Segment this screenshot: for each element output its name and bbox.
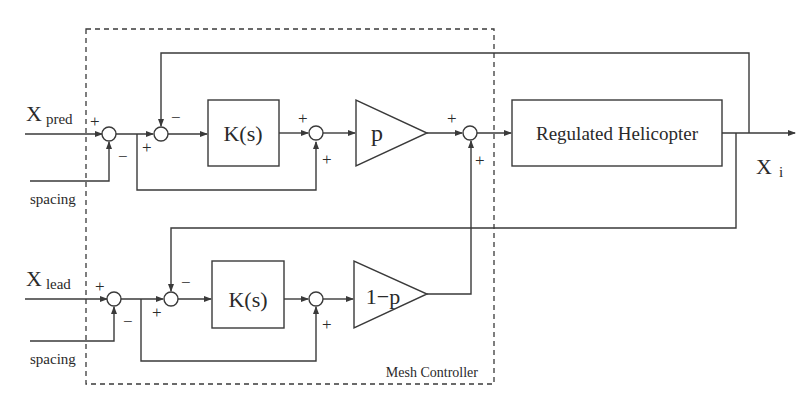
controller-bottom-label: K(s)	[228, 287, 267, 312]
spacing-top-label: spacing	[30, 191, 76, 207]
summing-junction-bottom-3	[309, 292, 323, 306]
sign-plus: +	[447, 109, 457, 128]
input-x-pred-label: Xpred	[26, 101, 73, 127]
gain-block-p	[356, 100, 427, 166]
summing-junction-mix	[463, 126, 477, 140]
wire-spacing-bottom	[30, 307, 114, 341]
controller-top-label: K(s)	[223, 121, 262, 146]
sign-plus: +	[152, 303, 162, 322]
sign-plus: +	[90, 112, 100, 131]
summing-junction-bottom-2	[164, 292, 178, 306]
sign-plus: +	[475, 151, 485, 170]
sign-plus: +	[298, 109, 308, 128]
gain-p-label: p	[371, 120, 383, 146]
sign-plus: +	[95, 277, 105, 296]
summing-junction-top-3	[309, 126, 323, 140]
sign-minus: −	[123, 312, 133, 331]
wire-gain-bottom-to-mix	[427, 141, 471, 294]
sign-plus: +	[322, 315, 332, 334]
sign-minus: −	[171, 108, 181, 127]
sign-minus: −	[181, 273, 191, 292]
sign-minus: −	[118, 147, 128, 166]
mesh-controller-diagram: Mesh Controller Xpred + spacing − + − K(…	[0, 0, 811, 408]
summing-junction-top-1	[102, 127, 116, 141]
mesh-controller-boundary	[86, 29, 494, 384]
output-x-i-label: Xi	[756, 154, 783, 180]
gain-1-minus-p-label: 1−p	[366, 284, 400, 309]
summing-junction-bottom-1	[107, 292, 121, 306]
plant-label: Regulated Helicopter	[536, 123, 699, 144]
sign-plus: +	[142, 138, 152, 157]
input-x-lead-label: Xlead	[26, 266, 71, 292]
spacing-bottom-label: spacing	[30, 351, 76, 367]
summing-junction-top-2	[154, 127, 168, 141]
sign-plus: +	[322, 150, 332, 169]
mesh-controller-label: Mesh Controller	[386, 365, 478, 380]
wire-spacing-top	[30, 142, 109, 181]
